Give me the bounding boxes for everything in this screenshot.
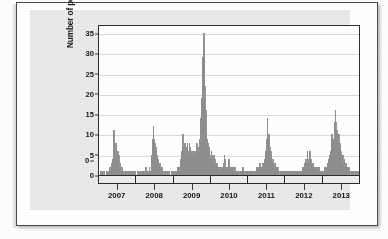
x-tick-label: 2007: [108, 191, 125, 200]
x-axis-segment-2007: [99, 176, 136, 183]
x-tick: [117, 184, 118, 190]
y-tick-label-zero: 0: [85, 156, 89, 165]
x-tick: [229, 184, 230, 190]
x-tick-label: 2010: [220, 191, 237, 200]
y-tick-label: 5: [90, 150, 94, 159]
y-axis-ticks: 05101520253035: [78, 25, 98, 175]
x-axis-segment-2013: [323, 176, 359, 183]
y-tick-label: 25: [86, 69, 94, 78]
y-tick-label: 10: [86, 130, 94, 139]
x-axis-tickrow: [98, 184, 360, 191]
figure-panel: Number of pediatric deaths 0510152025303…: [30, 10, 350, 210]
x-axis-band: [98, 175, 360, 184]
x-tick: [266, 184, 267, 190]
x-tick-label: 2013: [333, 191, 350, 200]
y-tick-label: 0: [90, 171, 94, 180]
y-tick-label: 30: [86, 49, 94, 58]
x-tick: [341, 184, 342, 190]
x-tick: [192, 184, 193, 190]
bar-series: [99, 26, 359, 175]
x-tick-label: 2009: [183, 191, 200, 200]
x-axis-segment-2008: [136, 176, 173, 183]
x-axis-segment-2011: [248, 176, 285, 183]
y-axis-title: Number of pediatric deaths: [66, 0, 78, 48]
scanned-page: Number of pediatric deaths 0510152025303…: [0, 0, 388, 235]
x-tick-label: 2008: [145, 191, 162, 200]
x-tick-label: 2012: [295, 191, 312, 200]
x-axis-labels: 2007200820092010201120122013: [98, 191, 360, 205]
x-axis-segment-2012: [285, 176, 322, 183]
y-tick-label: 20: [86, 89, 94, 98]
y-tick-label: 35: [86, 29, 94, 38]
plot-area: 2007200820092010201120122013: [98, 25, 360, 189]
x-axis-segment-2009: [174, 176, 211, 183]
y-tick-label: 15: [86, 110, 94, 119]
x-tick: [154, 184, 155, 190]
x-tick: [304, 184, 305, 190]
plot-frame: [98, 25, 360, 175]
x-tick-label: 2011: [258, 191, 275, 200]
x-axis-segment-2010: [211, 176, 248, 183]
